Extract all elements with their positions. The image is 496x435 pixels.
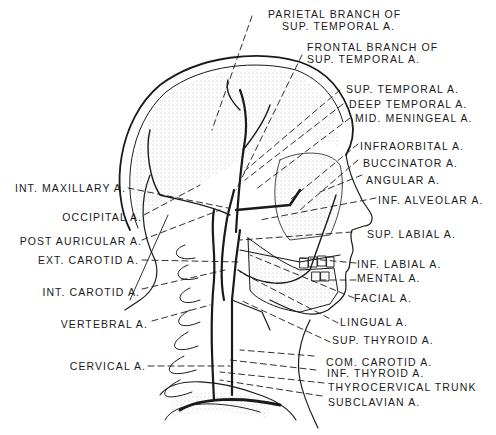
label-angular: ANGULAR A.	[366, 174, 440, 186]
cervical-vertebrae	[165, 245, 200, 397]
internal-carotid	[222, 190, 234, 300]
label-buccinator: BUCCINATOR A.	[363, 157, 458, 169]
common-carotid	[232, 230, 240, 395]
label-sup-labial: SUP. LABIAL A.	[367, 228, 456, 240]
label-int-carotid: INT. CAROTID A.	[42, 286, 140, 298]
label-frontal-branch: FRONTAL BRANCH OFSUP. TEMPORAL A.	[307, 41, 438, 65]
label-subclavian: SUBCLAVIAN A.	[328, 396, 420, 408]
label-mental: MENTAL A.	[357, 272, 421, 284]
label-line: FRONTAL BRANCH OF	[307, 41, 438, 53]
label-deep-temporal: DEEP TEMPORAL A.	[349, 98, 467, 110]
label-sup-temporal: SUP. TEMPORAL A.	[346, 83, 459, 95]
neck-front-outline	[298, 320, 318, 428]
label-int-maxillary: INT. MAXILLARY A.	[15, 182, 126, 194]
label-inf-thyroid: INF. THYROID A.	[327, 367, 424, 379]
label-post-auricular: POST AURICULAR A.	[20, 235, 142, 247]
label-occipital: OCCIPITAL A.	[62, 211, 142, 223]
label-thyrocervical-trunk: THYROCERVICAL TRUNK	[328, 381, 476, 393]
label-sup-thyroid: SUP. THYROID A.	[332, 334, 434, 346]
label-infraorbital: INFRAORBITAL A.	[360, 140, 464, 152]
label-inf-labial: INF. LABIAL A.	[357, 258, 441, 270]
label-vertebral: VERTEBRAL A.	[61, 318, 148, 330]
label-lingual: LINGUAL A.	[340, 316, 408, 328]
label-parietal-branch: PARIETAL BRANCH OFSUP. TEMPORAL A.	[268, 8, 401, 32]
label-inf-alveolar: INF. ALVEOLAR A.	[378, 194, 484, 206]
label-line: PARIETAL BRANCH OF	[268, 8, 401, 20]
mandible	[248, 238, 338, 312]
label-line: SUP. TEMPORAL A.	[268, 20, 395, 32]
label-facial: FACIAL A.	[354, 292, 412, 304]
label-cervical: CERVICAL A.	[70, 360, 146, 372]
label-ext-carotid: EXT. CAROTID A.	[38, 254, 139, 266]
label-mid-meningeal: MID. MENINGEAL A.	[355, 112, 473, 124]
label-line: SUP. TEMPORAL A.	[307, 53, 420, 65]
vertebral-artery	[212, 210, 215, 400]
